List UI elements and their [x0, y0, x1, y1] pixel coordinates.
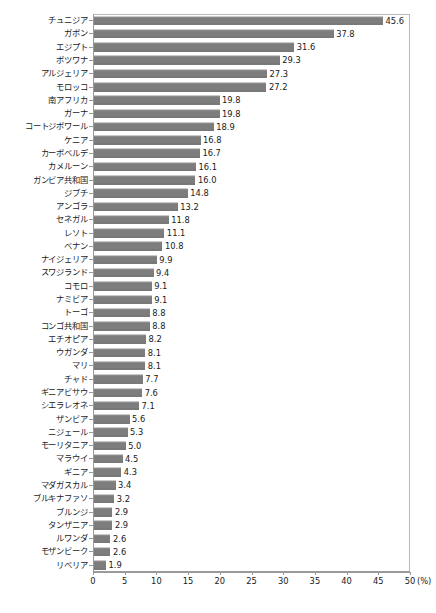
y-axis-tick	[89, 472, 93, 473]
x-axis-tick-label: 35	[310, 576, 321, 586]
bar	[94, 468, 121, 477]
category-label: トーゴ	[0, 308, 88, 317]
bar	[94, 441, 126, 450]
bar-row: スワジランド9.4	[0, 266, 436, 279]
category-label: アンゴラ	[0, 202, 88, 211]
bar-row: シエラレオネ7.1	[0, 399, 436, 412]
bar	[94, 136, 201, 145]
bar	[94, 162, 196, 171]
bar-container	[94, 322, 150, 331]
y-axis-tick	[89, 140, 93, 141]
bar-row: ジブチ14.8	[0, 187, 436, 200]
bar-value-label: 11.8	[169, 215, 190, 224]
bar-value-label: 19.8	[220, 109, 241, 118]
y-axis-tick	[89, 312, 93, 313]
category-label: コンゴ共和国	[0, 322, 88, 331]
bar-container	[94, 136, 201, 145]
y-axis-tick	[89, 193, 93, 194]
bar-container	[94, 309, 150, 318]
bar-container	[94, 521, 112, 530]
bar-value-label: 9.4	[154, 268, 170, 277]
y-axis-tick	[89, 180, 93, 181]
category-label: マダガスカル	[0, 481, 88, 490]
bar-container	[94, 508, 112, 517]
bar-row: チュニジア45.6	[0, 14, 436, 27]
bar-value-label: 8.2	[146, 335, 162, 344]
bar	[94, 455, 123, 464]
bar-value-label: 8.8	[150, 308, 166, 317]
bar-value-label: 5.6	[130, 415, 146, 424]
bar	[94, 534, 110, 543]
bar-value-label: 18.9	[214, 122, 235, 131]
bar-container	[94, 348, 145, 357]
bar-container	[94, 495, 114, 504]
y-axis-tick	[89, 379, 93, 380]
x-axis-tick-label: 50	[405, 576, 416, 586]
y-axis-tick	[89, 458, 93, 459]
category-label: レソト	[0, 229, 88, 238]
bar-value-label: 3.4	[116, 481, 132, 490]
bar-value-label: 16.1	[196, 162, 217, 171]
bar-row: ニジェール5.3	[0, 426, 436, 439]
category-label: カーボベルデ	[0, 149, 88, 158]
bar-row: タンザニア2.9	[0, 519, 436, 532]
bar-container	[94, 216, 169, 225]
category-label: カメルーン	[0, 162, 88, 171]
x-axis-tick	[156, 572, 157, 575]
bar-value-label: 7.1	[139, 401, 155, 410]
category-label: リベリア	[0, 561, 88, 570]
bar-value-label: 2.6	[110, 547, 126, 556]
y-axis-tick	[89, 365, 93, 366]
x-axis-tick	[378, 572, 379, 575]
bar-row: ギニア4.3	[0, 466, 436, 479]
bar-rows-container: チュニジア45.6ガボン37.8エジプト31.6ボツワナ29.3アルジェリア27…	[0, 14, 436, 572]
bar-value-label: 29.3	[280, 56, 301, 65]
x-axis-tick-label: 5	[122, 576, 127, 586]
y-axis-tick	[89, 272, 93, 273]
bar	[94, 335, 146, 344]
category-label: タンザニア	[0, 521, 88, 530]
y-axis-tick	[89, 498, 93, 499]
bar-value-label: 5.0	[126, 441, 142, 450]
category-label: エチオピア	[0, 335, 88, 344]
bar	[94, 30, 334, 39]
bar-value-label: 5.3	[128, 428, 144, 437]
y-axis-tick	[89, 20, 93, 21]
bar-row: ガーナ19.8	[0, 107, 436, 120]
bar-row: アンゴラ13.2	[0, 200, 436, 213]
bar	[94, 295, 152, 304]
bar-value-label: 2.9	[112, 508, 128, 517]
bar	[94, 508, 112, 517]
bar-container	[94, 189, 188, 198]
bar-row: ボツワナ29.3	[0, 54, 436, 67]
y-axis-tick	[89, 419, 93, 420]
bar	[94, 322, 150, 331]
y-axis-tick	[89, 166, 93, 167]
bar	[94, 216, 169, 225]
bar-container	[94, 362, 145, 371]
bar	[94, 282, 152, 291]
y-axis-tick	[89, 352, 93, 353]
bar-container	[94, 402, 139, 411]
bar	[94, 43, 294, 52]
bar-value-label: 9.9	[157, 255, 173, 264]
y-axis-tick	[89, 445, 93, 446]
bar-container	[94, 70, 267, 79]
bar-container	[94, 162, 196, 171]
bar-row: レソト11.1	[0, 227, 436, 240]
bar-value-label: 4.5	[123, 454, 139, 463]
category-label: マリ	[0, 361, 88, 370]
bar-row: ザンビア5.6	[0, 412, 436, 425]
y-axis-tick	[89, 113, 93, 114]
bar-value-label: 16.8	[201, 136, 222, 145]
category-label: モザンビーク	[0, 547, 88, 556]
bar	[94, 375, 143, 384]
bar-container	[94, 30, 334, 39]
bar-value-label: 16.7	[200, 149, 221, 158]
bar-row: ギニアビサウ7.6	[0, 386, 436, 399]
bar-row: マダガスカル3.4	[0, 479, 436, 492]
bar-row: コンゴ共和国8.8	[0, 319, 436, 332]
bar-value-label: 7.7	[143, 375, 159, 384]
bar-row: モザンビーク2.6	[0, 545, 436, 558]
y-axis-tick	[89, 525, 93, 526]
